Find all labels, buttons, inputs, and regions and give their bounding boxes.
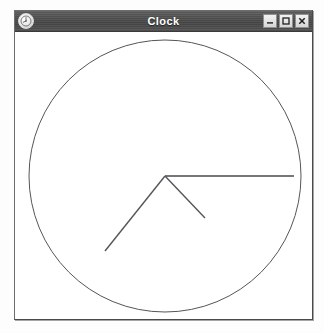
desktop-background: Clock bbox=[0, 0, 324, 333]
maximize-button[interactable] bbox=[279, 14, 293, 28]
close-icon bbox=[297, 16, 307, 26]
minimize-button[interactable] bbox=[263, 14, 277, 28]
window-title-bar[interactable]: Clock bbox=[15, 11, 312, 32]
close-button[interactable] bbox=[295, 14, 309, 28]
maximize-icon bbox=[281, 16, 291, 26]
clock-window[interactable]: Clock bbox=[14, 10, 313, 320]
window-controls bbox=[263, 14, 309, 28]
analog-clock[interactable] bbox=[15, 33, 312, 319]
clock-client-area[interactable] bbox=[15, 32, 312, 319]
clock-app-icon[interactable] bbox=[18, 13, 34, 29]
minimize-icon bbox=[265, 16, 275, 26]
